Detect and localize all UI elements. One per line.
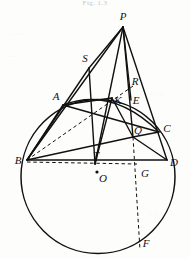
segment-B-O-G [27, 162, 137, 164]
point-label-a: A [53, 91, 60, 102]
point-label-d: D [170, 157, 178, 168]
main-circle [21, 100, 175, 254]
segment-P-B [27, 27, 123, 160]
circle-layer [21, 100, 175, 254]
point-label-b: B [15, 155, 22, 166]
point-label-c: C [163, 123, 170, 134]
point-label-e: E [133, 95, 140, 106]
point-label-o: O [99, 173, 107, 184]
point-label-q: Q [134, 125, 142, 136]
segment-A-C [63, 105, 159, 132]
point-label-k: K [114, 95, 121, 106]
point-label-f: F [143, 238, 150, 249]
segment-P-S [89, 27, 123, 68]
figure-canvas [0, 0, 190, 259]
point-label-s: S [82, 53, 88, 64]
point-label-p: P [120, 11, 127, 22]
geometry-figure: Fig. 1.3 PSARKEQCBTOGDF · · ·· ·· · ·· ·… [0, 0, 190, 259]
point-label-r: R [132, 76, 139, 87]
segment-Q-D [133, 137, 167, 160]
segment-Q-G-F [133, 137, 140, 250]
segment-A-B [27, 105, 63, 160]
point-label-t: T [93, 150, 99, 161]
solid-lines-layer [27, 27, 167, 164]
point-label-g: G [141, 168, 149, 179]
